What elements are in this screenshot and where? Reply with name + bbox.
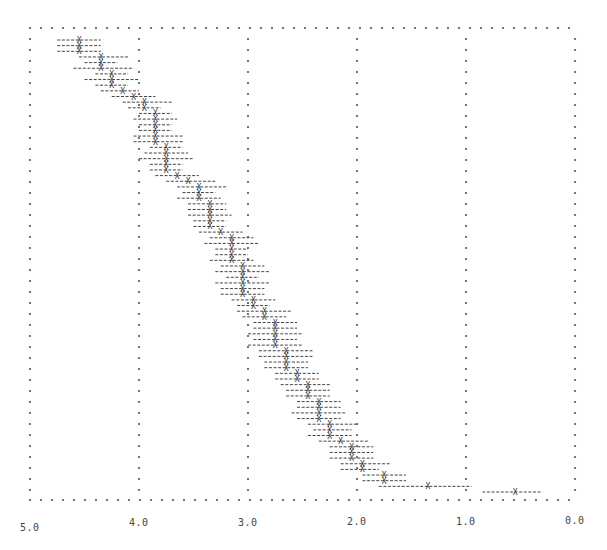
x-marker: X [186, 177, 191, 186]
x-marker: X [316, 415, 321, 424]
interval-bars [57, 40, 542, 492]
chart-plot-area: XXXXXXXXXXXXXXXXXXXXXXXXXXXXXXXXXXXXXXXX… [0, 0, 607, 550]
x-marker: X [98, 64, 103, 73]
x-marker: X [218, 228, 223, 237]
x-marker: X [131, 93, 136, 102]
x-marker: X [295, 375, 300, 384]
x-marker: X [382, 477, 387, 486]
x-marker: X [229, 256, 234, 265]
x-marker: X [153, 138, 158, 147]
x-markers: XXXXXXXXXXXXXXXXXXXXXXXXXXXXXXXXXXXXXXXX… [77, 36, 518, 497]
x-marker: X [262, 313, 267, 322]
x-marker: X [197, 194, 202, 203]
x-marker: X [425, 482, 430, 491]
x-tick-label: 3.0 [238, 517, 258, 528]
x-marker: X [120, 87, 125, 96]
x-tick-label: 1.0 [456, 516, 476, 527]
x-tick-label: 0.0 [565, 515, 585, 526]
x-tick-label: 4.0 [129, 517, 149, 528]
x-marker: X [273, 341, 278, 350]
x-marker: X [327, 432, 332, 441]
x-marker: X [349, 454, 354, 463]
vertical-gridlines [29, 38, 576, 491]
x-marker: X [142, 104, 147, 113]
x-marker: X [360, 465, 365, 474]
x-marker: X [207, 222, 212, 231]
x-marker: X [306, 392, 311, 401]
x-marker: X [109, 81, 114, 90]
x-marker: X [240, 290, 245, 299]
x-marker: X [338, 437, 343, 446]
x-marker: X [175, 172, 180, 181]
chart-frame [29, 27, 570, 501]
x-marker: X [284, 364, 289, 373]
x-marker: X [77, 47, 82, 56]
x-tick-label: 5.0 [20, 522, 40, 533]
x-marker: X [513, 488, 518, 497]
x-tick-label: 2.0 [347, 516, 367, 527]
x-marker: X [164, 166, 169, 175]
x-marker: X [251, 302, 256, 311]
